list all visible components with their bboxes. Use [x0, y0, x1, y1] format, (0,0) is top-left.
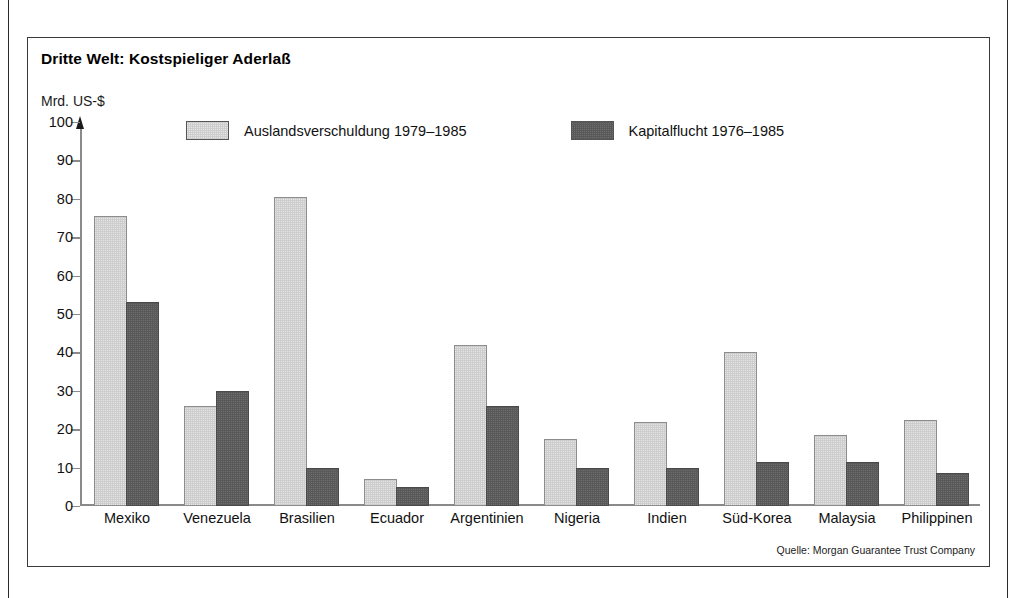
- bar-auslandsverschuldung: [364, 479, 397, 506]
- bar-auslandsverschuldung: [634, 422, 667, 506]
- bar-auslandsverschuldung: [724, 352, 757, 506]
- bar-group: [364, 122, 430, 506]
- bar-group: [94, 122, 160, 506]
- y-tick-label: 60: [57, 268, 73, 284]
- x-category-label: Brasilien: [279, 510, 335, 526]
- bar-kapitalflucht: [666, 468, 699, 506]
- bar-kapitalflucht: [396, 487, 429, 506]
- bar-group: [274, 122, 340, 506]
- y-tick-label: 50: [57, 306, 73, 322]
- bar-kapitalflucht: [756, 462, 789, 506]
- bar-group: [904, 122, 970, 506]
- y-tick-label: 90: [57, 152, 73, 168]
- bar-group: [544, 122, 610, 506]
- plot-area: 0102030405060708090100 MexikoVenezuelaBr…: [80, 116, 980, 506]
- bar-kapitalflucht: [486, 406, 519, 506]
- bar-auslandsverschuldung: [904, 420, 937, 506]
- bar-group: [184, 122, 250, 506]
- y-axis-unit-label: Mrd. US-$: [41, 93, 105, 109]
- bar-auslandsverschuldung: [274, 197, 307, 506]
- bar-kapitalflucht: [936, 473, 969, 506]
- bar-auslandsverschuldung: [454, 345, 487, 506]
- page-rule-right: [1007, 0, 1008, 598]
- y-tick-label: 30: [57, 383, 73, 399]
- bar-kapitalflucht: [576, 468, 609, 506]
- chart-title: Dritte Welt: Kostspieliger Aderlaß: [41, 50, 291, 68]
- x-category-label: Venezuela: [183, 510, 251, 526]
- y-tick-label: 80: [57, 191, 73, 207]
- x-category-label: Malaysia: [818, 510, 875, 526]
- y-tick-label: 70: [57, 229, 73, 245]
- x-category-label: Philippinen: [902, 510, 973, 526]
- bar-group: [724, 122, 790, 506]
- bar-series-container: [80, 122, 980, 506]
- bar-group: [814, 122, 880, 506]
- bar-auslandsverschuldung: [94, 216, 127, 506]
- y-tick-label: 100: [49, 114, 73, 130]
- chart-frame: Dritte Welt: Kostspieliger Aderlaß Mrd. …: [27, 37, 990, 567]
- x-category-label: Indien: [647, 510, 687, 526]
- bar-kapitalflucht: [846, 462, 879, 506]
- x-category-label: Argentinien: [450, 510, 523, 526]
- bar-auslandsverschuldung: [814, 435, 847, 506]
- bar-kapitalflucht: [306, 468, 339, 506]
- bar-auslandsverschuldung: [184, 406, 217, 506]
- x-category-label: Nigeria: [554, 510, 600, 526]
- x-category-label: Süd-Korea: [722, 510, 791, 526]
- source-note: Quelle: Morgan Guarantee Trust Company: [777, 544, 975, 556]
- y-tick-label: 20: [57, 421, 73, 437]
- chart-page: Dritte Welt: Kostspieliger Aderlaß Mrd. …: [0, 0, 1018, 598]
- page-rule-left: [8, 0, 9, 598]
- y-tick-label: 40: [57, 344, 73, 360]
- y-tick-label: 0: [65, 498, 73, 514]
- bar-group: [634, 122, 700, 506]
- bar-kapitalflucht: [216, 391, 249, 506]
- bar-kapitalflucht: [126, 302, 159, 506]
- bar-auslandsverschuldung: [544, 439, 577, 506]
- bar-group: [454, 122, 520, 506]
- x-category-label: Ecuador: [370, 510, 424, 526]
- y-tick-label: 10: [57, 460, 73, 476]
- x-category-label: Mexiko: [104, 510, 150, 526]
